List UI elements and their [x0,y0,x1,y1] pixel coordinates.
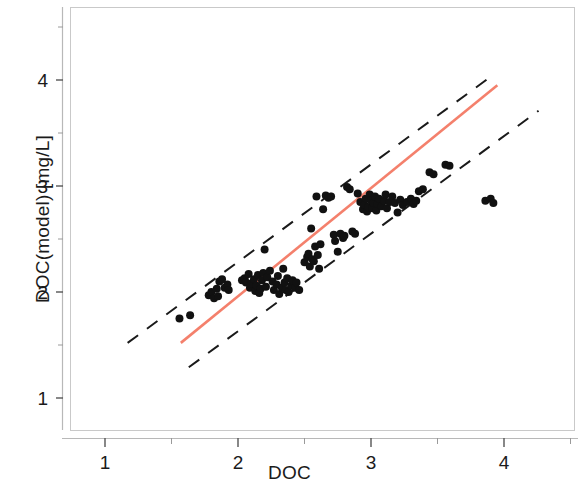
plot-frame [71,8,575,431]
data-point [214,292,222,300]
data-point [346,185,354,193]
data-point [279,265,287,273]
data-point [314,251,322,259]
data-point [489,199,497,207]
data-point [312,193,320,201]
data-point [213,285,221,293]
data-point [354,189,362,197]
data-point [315,265,323,273]
data-point [394,209,402,217]
y-tick-label: 1 [37,388,48,409]
x-axis-ticks [105,438,571,447]
data-point [293,278,301,286]
data-point [351,230,359,238]
data-point [262,283,270,291]
chart-root: 1234 1234 DOC DOC(model) [mg/L] [0,0,579,493]
data-point [340,232,348,240]
data-point [331,237,339,245]
scatter-plot: 1234 1234 [0,0,579,493]
data-point [274,272,282,280]
data-point [261,246,269,254]
y-axis-title: DOC(model) [mg/L] [32,49,54,389]
data-point [175,315,183,323]
data-point [430,170,438,178]
data-point [412,197,420,205]
data-point [445,162,453,170]
data-point [316,240,324,248]
data-point [307,224,315,232]
data-point [295,286,303,294]
data-point [327,193,335,201]
data-point [186,311,194,319]
data-point [419,185,427,193]
data-point [319,205,327,213]
data-point [266,267,274,275]
data-point [225,286,233,294]
data-point [334,248,342,256]
x-axis-title: DOC [0,462,579,484]
